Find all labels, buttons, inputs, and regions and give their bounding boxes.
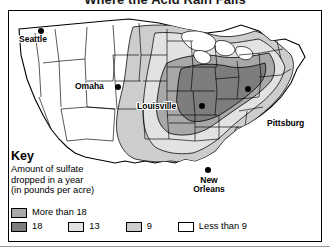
legend-swatch-less-than-9	[178, 222, 194, 232]
legend-label-more-than-18: More than 18	[32, 207, 87, 218]
legend-swatch-18	[11, 222, 27, 232]
map-key: Key Amount of sulfate dropped in a year …	[11, 149, 161, 196]
legend-row-primary: More than 18	[11, 207, 322, 218]
legend-item-13: 13	[68, 221, 99, 232]
city-label-louisville: Louisville	[137, 102, 176, 111]
bottom-rule	[0, 246, 330, 247]
city-label-new-orleans-line2: Orleans	[185, 185, 233, 194]
legend-label-13: 13	[89, 221, 99, 232]
louisville-dot	[199, 103, 205, 109]
key-description-line3: (in pounds per acre)	[11, 185, 161, 196]
legend-label-less-than-9: Less than 9	[199, 221, 247, 232]
map-frame: Seattle Omaha Louisville Pittsburg New O…	[8, 10, 322, 242]
new-orleans-dot	[205, 167, 211, 173]
legend-swatch-more-than-18	[11, 208, 27, 218]
legend-swatch-13	[68, 222, 84, 232]
legend-swatch-9	[126, 222, 142, 232]
key-description-line2: dropped in a year	[11, 175, 161, 186]
legend-item-18: 18	[11, 221, 42, 232]
legend-item-less-than-9: Less than 9	[178, 221, 247, 232]
deposition-bands	[116, 25, 293, 162]
legend-label-18: 18	[32, 221, 42, 232]
legend-item-9: 9	[126, 221, 152, 232]
pittsburg-dot	[245, 86, 251, 92]
legend-row-secondary: 18 13 9 Less than 9	[11, 221, 322, 232]
legend-label-9: 9	[147, 221, 152, 232]
key-description-line1: Amount of sulfate	[11, 164, 161, 175]
map-legend: More than 18 18 13 9 Less than 9	[11, 207, 322, 232]
city-label-pittsburg: Pittsburg	[267, 119, 304, 128]
key-heading: Key	[11, 149, 161, 163]
omaha-dot	[115, 84, 121, 90]
key-description: Amount of sulfate dropped in a year (in …	[11, 164, 161, 196]
city-label-omaha: Omaha	[75, 82, 104, 91]
page-title: Where the Acid Rain Falls	[0, 0, 330, 7]
city-label-seattle: Seattle	[19, 35, 47, 44]
legend-item-more-than-18: More than 18	[11, 207, 87, 218]
